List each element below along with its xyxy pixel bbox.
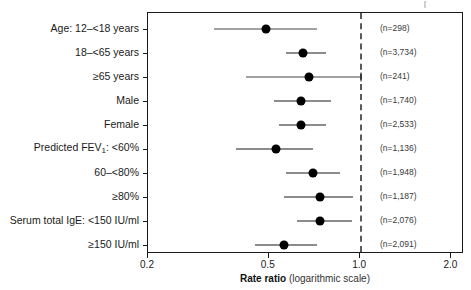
- y-axis-tick: [143, 125, 148, 126]
- sample-size-column: (n=298)(n=3,734)(n=241)(n=1,740)(n=2,533…: [380, 0, 471, 290]
- point-estimate-marker: [262, 25, 271, 34]
- row-label: Female: [104, 119, 139, 130]
- row-label: 60–<80%: [94, 167, 139, 178]
- x-axis-title: Rate ratio (logarithmic scale): [147, 273, 463, 284]
- y-axis-tick: [143, 101, 148, 102]
- reference-line-1.0: [360, 13, 362, 252]
- row-label: ≥65 years: [93, 71, 139, 82]
- point-estimate-marker: [299, 49, 308, 58]
- y-axis-tick: [143, 221, 148, 222]
- point-estimate-marker: [272, 145, 281, 154]
- x-axis-tick: [359, 253, 360, 258]
- x-axis-tick-label: 0.2: [140, 259, 154, 270]
- y-axis-tick: [143, 29, 148, 30]
- y-axis-tick: [143, 197, 148, 198]
- row-label: ≥150 IU/ml: [88, 239, 139, 250]
- sample-size-label: (n=2,533): [380, 120, 417, 129]
- y-axis-tick: [143, 53, 148, 54]
- row-label: ≥80%: [112, 191, 139, 202]
- confidence-interval-line: [246, 77, 362, 78]
- point-estimate-marker: [309, 169, 318, 178]
- row-label: Male: [116, 95, 139, 106]
- sample-size-label: (n=3,734): [380, 48, 417, 57]
- point-estimate-marker: [279, 241, 288, 250]
- x-axis-tick-label: 1.0: [352, 259, 366, 270]
- sample-size-label: (n=1,948): [380, 168, 417, 177]
- y-axis-tick: [143, 173, 148, 174]
- sample-size-label: (n=1,187): [380, 192, 417, 201]
- sample-size-label: (n=2,091): [380, 240, 417, 249]
- sample-size-label: (n=1,136): [380, 144, 417, 153]
- x-axis-title-note: (logarithmic scale): [289, 273, 370, 284]
- point-estimate-marker: [297, 121, 306, 130]
- row-label: 18–<65 years: [75, 47, 139, 58]
- y-axis-tick: [143, 149, 148, 150]
- sample-size-label: (n=1,740): [380, 96, 417, 105]
- row-label: Serum total IgE: <150 IU/ml: [10, 215, 139, 226]
- sample-size-label: (n=298): [380, 24, 410, 33]
- x-axis-tick: [450, 253, 451, 258]
- y-axis-tick: [143, 77, 148, 78]
- sample-size-label: (n=241): [380, 72, 410, 81]
- point-estimate-marker: [316, 193, 325, 202]
- row-label: Predicted FEV1: <60%: [34, 142, 139, 154]
- sample-size-label: (n=2,076): [380, 216, 417, 225]
- x-axis-tick: [147, 253, 148, 258]
- point-estimate-marker: [316, 217, 325, 226]
- x-axis-tick: [268, 253, 269, 258]
- x-axis-tick-label: 2.0: [443, 259, 457, 270]
- confidence-interval-cap: [361, 73, 362, 82]
- y-axis-tick: [143, 245, 148, 246]
- x-axis-title-main: Rate ratio: [240, 273, 286, 284]
- x-axis-tick-label: 0.5: [261, 259, 275, 270]
- point-estimate-marker: [297, 97, 306, 106]
- point-estimate-marker: [305, 73, 314, 82]
- row-label-column: Age: 12–<18 years18–<65 years≥65 yearsMa…: [0, 0, 143, 290]
- forest-plot-figure: Age: 12–<18 years18–<65 years≥65 yearsMa…: [0, 0, 471, 290]
- row-label: Age: 12–<18 years: [51, 23, 139, 34]
